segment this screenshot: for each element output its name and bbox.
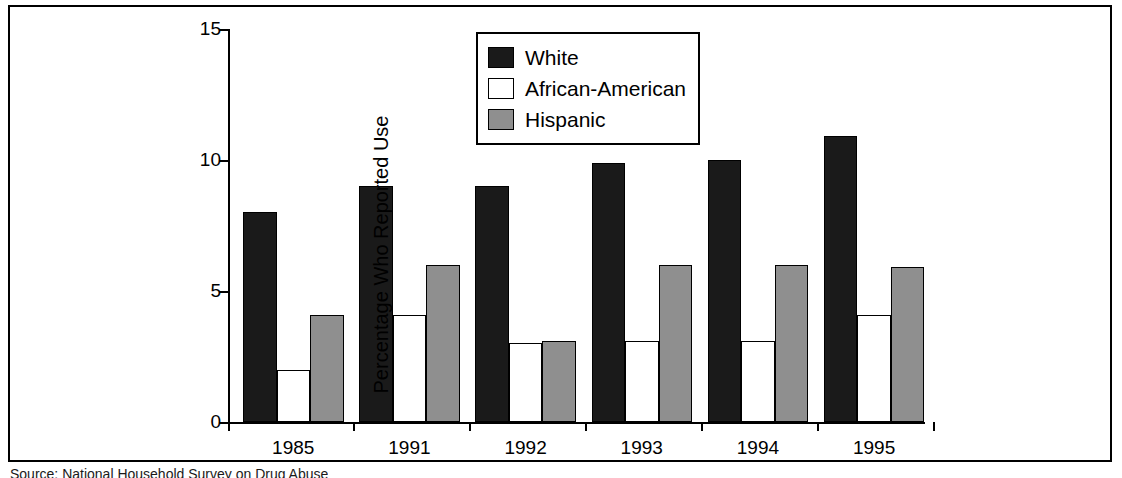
legend-swatch-hispanic-icon bbox=[488, 109, 514, 130]
y-tick-label: 15 bbox=[200, 18, 221, 40]
bar-1991-african-american bbox=[393, 315, 427, 422]
bar-1991-hispanic bbox=[426, 265, 460, 422]
bar-1992-white bbox=[475, 186, 509, 422]
x-tick-mark-origin bbox=[228, 422, 230, 431]
bar-1993-hispanic bbox=[659, 265, 693, 422]
legend-item-white: White bbox=[488, 42, 686, 73]
bar-1985-african-american bbox=[277, 370, 311, 422]
bar-1993-white bbox=[592, 163, 626, 422]
x-tick-label-1995: 1995 bbox=[853, 437, 895, 459]
x-tick-mark bbox=[585, 422, 587, 431]
legend-label-hispanic: Hispanic bbox=[525, 108, 606, 132]
x-axis-line bbox=[228, 422, 925, 424]
legend-item-hispanic: Hispanic bbox=[488, 104, 686, 135]
bar-1994-hispanic bbox=[775, 265, 809, 422]
bar-1992-african-american bbox=[509, 343, 543, 422]
source-note: Source: National Household Survey on Dru… bbox=[10, 467, 328, 478]
y-axis-title: Percentage Who Reported Use bbox=[370, 58, 396, 451]
legend-item-african-american: African-American bbox=[488, 73, 686, 104]
bar-1995-white bbox=[824, 136, 858, 422]
bar-1993-african-american bbox=[625, 341, 659, 422]
legend-label-white: White bbox=[525, 46, 579, 70]
x-tick-label-1985: 1985 bbox=[272, 437, 314, 459]
y-axis-line bbox=[228, 29, 230, 422]
chart-legend: White African-American Hispanic bbox=[476, 32, 700, 145]
bar-1995-african-american bbox=[857, 315, 891, 422]
x-tick-label-1994: 1994 bbox=[737, 437, 779, 459]
x-tick-mark bbox=[933, 422, 935, 431]
legend-label-african-american: African-American bbox=[525, 77, 686, 101]
y-tick-label: 10 bbox=[200, 149, 221, 171]
legend-swatch-white-icon bbox=[488, 47, 514, 68]
x-tick-mark bbox=[701, 422, 703, 431]
y-tick-label: 5 bbox=[210, 280, 221, 302]
bar-1992-hispanic bbox=[542, 341, 576, 422]
bar-1985-white bbox=[243, 212, 277, 422]
bar-1995-hispanic bbox=[891, 267, 925, 422]
figure-root: 051015 198519911992199319941995 Percenta… bbox=[0, 0, 1122, 478]
bar-1985-hispanic bbox=[310, 315, 344, 422]
bar-1994-african-american bbox=[741, 341, 775, 422]
x-tick-mark bbox=[469, 422, 471, 431]
x-tick-label-1993: 1993 bbox=[621, 437, 663, 459]
y-tick-label: 0 bbox=[210, 411, 221, 433]
legend-swatch-african-american-icon bbox=[488, 78, 514, 99]
x-tick-mark bbox=[817, 422, 819, 431]
x-tick-label-1992: 1992 bbox=[504, 437, 546, 459]
x-tick-mark bbox=[353, 422, 355, 431]
bar-1994-white bbox=[708, 160, 742, 422]
